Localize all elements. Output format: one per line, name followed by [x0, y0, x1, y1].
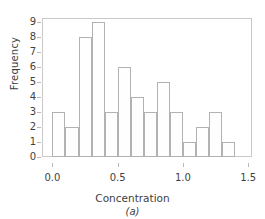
y-tick-mark	[37, 112, 41, 113]
figure-caption: (a)	[0, 206, 265, 217]
y-tick-mark	[37, 52, 41, 53]
x-tick-label: 0.0	[32, 173, 72, 183]
histogram-bar	[183, 142, 196, 157]
y-tick-mark	[37, 157, 41, 158]
histogram-bar	[105, 112, 118, 157]
x-tick-label: 1.0	[163, 173, 203, 183]
histogram-bar	[131, 97, 144, 157]
y-tick-mark	[37, 82, 41, 83]
x-tick-mark	[183, 163, 184, 167]
histogram-bar	[52, 112, 65, 157]
histogram-figure: Frequency 0123456789 0.00.51.01.5 Concen…	[0, 0, 265, 219]
x-tick-label: 1.5	[228, 173, 265, 183]
y-tick-label: 8	[18, 32, 36, 42]
plot-area	[42, 18, 252, 157]
histogram-bar	[65, 127, 78, 157]
y-tick-label: 9	[18, 17, 36, 27]
x-tick-label: 0.5	[98, 173, 138, 183]
y-tick-label: 7	[18, 47, 36, 57]
y-tick-label: 3	[18, 107, 36, 117]
y-tick-mark	[37, 127, 41, 128]
histogram-bar	[222, 142, 235, 157]
y-tick-label: 4	[18, 92, 36, 102]
histogram-bar	[118, 67, 131, 157]
x-tick-mark	[52, 163, 53, 167]
histogram-bar	[209, 112, 222, 157]
histogram-bar	[170, 112, 183, 157]
histogram-bar	[157, 82, 170, 157]
x-tick-mark	[248, 163, 249, 167]
y-tick-mark	[37, 37, 41, 38]
histogram-bar	[79, 37, 92, 157]
y-tick-mark	[37, 22, 41, 23]
y-tick-label: 6	[18, 62, 36, 72]
histogram-bar	[196, 127, 209, 157]
y-tick-label: 5	[18, 77, 36, 87]
y-tick-mark	[37, 142, 41, 143]
y-tick-label: 0	[18, 152, 36, 162]
histogram-bar	[92, 22, 105, 157]
y-tick-label: 1	[18, 137, 36, 147]
histogram-bar	[144, 112, 157, 157]
y-tick-mark	[37, 67, 41, 68]
y-tick-mark	[37, 97, 41, 98]
x-tick-mark	[118, 163, 119, 167]
y-tick-label: 2	[18, 122, 36, 132]
x-axis-label: Concentration	[0, 192, 265, 204]
